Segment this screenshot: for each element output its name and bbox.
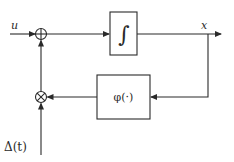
block-diagram: u ∫ x φ(·) Δ(t) (0, 0, 234, 162)
input-label: u (11, 19, 18, 32)
feedback-branch-arrow (151, 34, 208, 97)
integrator-block: ∫ (110, 12, 137, 55)
disturbance-label: Δ(t) (4, 140, 27, 154)
multiplier-junction (36, 92, 47, 103)
sum-junction (36, 29, 47, 40)
nonlinearity-block: φ(·) (97, 75, 150, 119)
nonlinearity-label: φ(·) (114, 91, 134, 104)
input-signal: u (10, 19, 35, 34)
output-label: x (201, 19, 208, 32)
integral-icon: ∫ (118, 22, 130, 47)
